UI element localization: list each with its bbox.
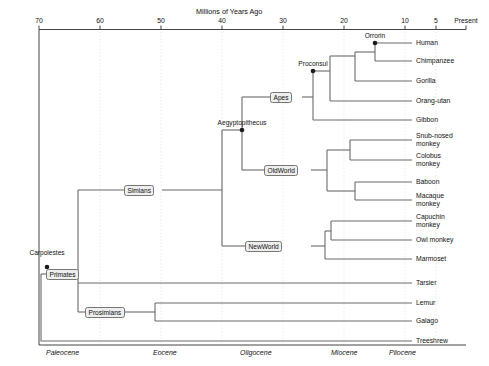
axis-tick-20: 20: [338, 17, 350, 24]
taxon-label-snub-nosed-monkey: Snub-nosed monkey: [416, 132, 453, 147]
taxon-label-baboon: Baboon: [416, 178, 439, 186]
taxon-label-marmoset: Marmoset: [416, 255, 446, 263]
axis-tick-70: 70: [33, 17, 45, 24]
taxon-label-capuchin-monkey: Capuchin monkey: [416, 213, 445, 228]
fossil-marker-aegyptopithecus: [240, 128, 245, 133]
epoch-label-oligocene: Oligocene: [240, 349, 272, 356]
fossil-marker-proconsul: [311, 69, 316, 74]
taxon-label-lemur: Lemur: [416, 299, 435, 307]
taxon-label-chimpanzee: Chimpanzee: [416, 57, 454, 65]
phylogenetic-tree-figure: Millions of Years Ago 70 60 50 40 30 20 …: [0, 0, 489, 366]
axis-tick-10: 10: [399, 17, 411, 24]
taxon-label-macaque-monkey: Macaque monkey: [416, 192, 444, 207]
clade-label-oldworld[interactable]: OldWorld: [264, 165, 298, 176]
taxon-label-galago: Galago: [416, 317, 438, 325]
taxon-label-orang-utan: Orang-utan: [416, 97, 450, 105]
taxon-label-treeshrew: Treeshrew: [416, 337, 448, 345]
fossil-label-orrorin: Orrorin: [357, 32, 393, 39]
axis-tick-present: Present: [447, 17, 485, 24]
clade-label-apes[interactable]: Apes: [270, 92, 292, 103]
clade-label-simians[interactable]: Simians: [124, 185, 154, 196]
fossil-label-aegyptopithecus: Aegyptopithecus: [190, 119, 294, 126]
taxon-label-human: Human: [416, 39, 438, 47]
epoch-label-pliocene: Pliocene: [389, 349, 416, 356]
axis-title: Millions of Years Ago: [196, 8, 262, 15]
taxon-label-owl-monkey: Owl monkey: [416, 236, 453, 244]
taxon-label-colobus-monkey: Colobus monkey: [416, 152, 441, 167]
axis-tick-50: 50: [155, 17, 167, 24]
epoch-label-eocene: Eocene: [153, 349, 177, 356]
clade-label-newworld[interactable]: NewWorld: [245, 241, 282, 252]
axis-tick-5: 5: [430, 17, 442, 24]
tree-branches: [41, 43, 412, 341]
time-axis: [39, 26, 466, 30]
epoch-label-paleocene: Paleocene: [46, 349, 79, 356]
clade-label-primates[interactable]: Primates: [46, 269, 79, 280]
axis-tick-60: 60: [94, 17, 106, 24]
taxon-label-gorilla: Gorilla: [416, 77, 436, 85]
taxon-label-gibbon: Gibbon: [416, 116, 438, 124]
epoch-label-miocene: Miocene: [331, 349, 357, 356]
fossil-label-proconsul: Proconsul: [291, 60, 335, 67]
clade-label-prosimians[interactable]: Prosimians: [85, 307, 125, 318]
epoch-axis: [39, 30, 466, 346]
axis-tick-40: 40: [216, 17, 228, 24]
axis-tick-30: 30: [277, 17, 289, 24]
fossil-label-carpolestes: Carpolestes: [18, 249, 76, 256]
fossil-marker-orrorin: [373, 41, 378, 46]
taxon-label-tarsier: Tarsier: [416, 279, 436, 287]
